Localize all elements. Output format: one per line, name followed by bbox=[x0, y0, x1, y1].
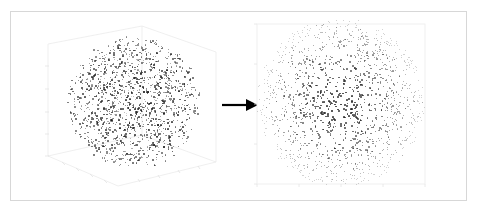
axes-2d-x-ticks bbox=[257, 184, 425, 187]
axes-3d-frame bbox=[18, 16, 223, 198]
axes-2d-spines bbox=[257, 24, 425, 184]
axes-3d-back-pane-top-left bbox=[48, 26, 142, 44]
axes-3d-z-ticks bbox=[45, 66, 49, 156]
right-2d-scatter-panel bbox=[250, 12, 460, 202]
axes-3d-floor-pane bbox=[48, 135, 216, 186]
left-3d-scatter-panel bbox=[18, 16, 223, 198]
axes-2d-frame bbox=[250, 12, 460, 202]
axes-3d-back-pane-top-right bbox=[142, 26, 216, 52]
figure-root bbox=[0, 0, 480, 215]
axes-2d-y-ticks bbox=[254, 24, 257, 184]
